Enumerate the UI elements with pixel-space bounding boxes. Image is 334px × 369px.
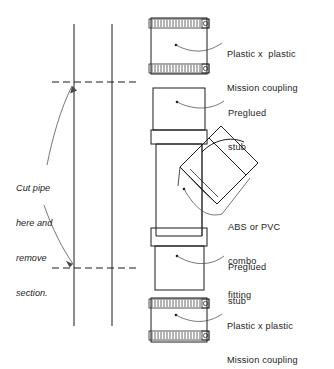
cut-note-line-2: here and bbox=[16, 218, 78, 230]
callout-bottom-mission-coupling-line-2: Mission coupling bbox=[227, 355, 298, 366]
leader-top-mission-coupling bbox=[175, 43, 222, 51]
combo-fitting bbox=[151, 130, 207, 236]
cut-note-line-1: Cut pipe bbox=[16, 183, 78, 195]
callout-bottom-mission-coupling-line-1: Plastic x plastic bbox=[227, 321, 298, 332]
cut-note-line-4: section. bbox=[16, 288, 78, 300]
cut-note-arrow-upper bbox=[47, 86, 77, 165]
callout-top-preglued-stub-line-2: stub bbox=[228, 142, 266, 153]
existing-vertical-pipe bbox=[74, 24, 112, 326]
leader-bottom-mission-coupling bbox=[175, 314, 222, 322]
callout-bottom-preglued-stub-line-1: Preglued bbox=[228, 262, 266, 273]
cut-note-line-3: remove bbox=[16, 253, 78, 265]
cut-pipe-instruction: Cut pipe here and remove section. bbox=[16, 160, 78, 322]
callout-top-mission-coupling-line-1: Plastic x plastic bbox=[227, 49, 298, 60]
callout-combo-fitting-line-1: ABS or PVC bbox=[228, 222, 280, 233]
callout-bottom-mission-coupling: Plastic x plastic Mission coupling bbox=[227, 298, 298, 369]
lower-preglued-stub bbox=[155, 246, 204, 290]
leader-top-preglued-stub bbox=[176, 101, 224, 108]
upper-preglued-stub bbox=[153, 88, 205, 130]
lower-hub-ring bbox=[151, 228, 207, 246]
leader-bottom-preglued-stub bbox=[176, 255, 224, 264]
callout-top-preglued-stub-line-1: Preglued bbox=[228, 108, 266, 119]
bottom-mission-coupling bbox=[149, 298, 209, 342]
callout-top-preglued-stub: Preglued stub bbox=[228, 85, 266, 176]
top-mission-coupling bbox=[149, 18, 209, 74]
